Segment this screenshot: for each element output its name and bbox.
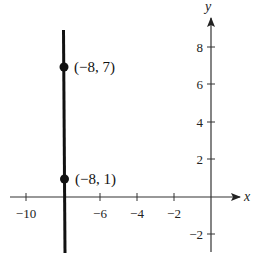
- x-tick-labels: −10 −6 −4 −2: [16, 206, 181, 221]
- y-tick-label: −2: [189, 227, 203, 242]
- y-tick-label: 4: [197, 115, 204, 130]
- y-tick-label: 2: [197, 152, 204, 167]
- y-tick-labels: 8 6 4 2 −2: [189, 40, 203, 242]
- x-tick-label: −6: [93, 206, 107, 221]
- x-tick-label: −2: [167, 206, 181, 221]
- point-neg8-1: [60, 175, 69, 184]
- y-axis-label: y: [203, 0, 212, 14]
- coordinate-plane: x y −10 −6 −4 −2 8 6 4 2 −2 (−8, 7) (−8,…: [0, 0, 254, 263]
- y-tick-label: 6: [197, 77, 204, 92]
- x-tick-label: −10: [16, 206, 36, 221]
- point-neg8-7: [60, 63, 69, 72]
- x-tick-label: −4: [130, 206, 144, 221]
- point-label-neg8-1: (−8, 1): [75, 171, 116, 188]
- y-tick-label: 8: [197, 40, 204, 55]
- x-axis-label: x: [243, 189, 251, 204]
- point-label-neg8-7: (−8, 7): [74, 59, 115, 76]
